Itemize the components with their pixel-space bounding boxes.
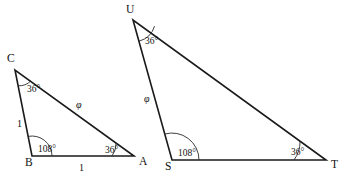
side-label-cb: 1 bbox=[17, 118, 22, 129]
angle-label-t: 36° bbox=[291, 147, 305, 157]
geometry-figure: C B A 36° 108° 36° 1 1 φ U S T 36° 108° … bbox=[0, 0, 344, 180]
figure-canvas: C B A 36° 108° 36° 1 1 φ U S T 36° 108° … bbox=[0, 0, 344, 180]
large-triangle-outline bbox=[133, 20, 326, 160]
angle-label-c: 36° bbox=[27, 84, 41, 94]
small-triangle: C B A 36° 108° 36° 1 1 φ bbox=[7, 52, 148, 173]
angle-label-b: 108° bbox=[38, 144, 56, 154]
vertex-label-b: B bbox=[25, 156, 33, 168]
angle-label-u: 36° bbox=[145, 36, 159, 46]
large-triangle: U S T 36° 108° 36° φ bbox=[126, 3, 338, 172]
vertex-label-t: T bbox=[331, 158, 338, 170]
vertex-label-s: S bbox=[165, 160, 171, 172]
angle-label-a: 36° bbox=[105, 145, 119, 155]
vertex-label-u: U bbox=[126, 3, 135, 15]
side-label-ca-phi: φ bbox=[76, 99, 82, 110]
side-label-ba: 1 bbox=[79, 162, 84, 173]
angle-label-s: 108° bbox=[178, 148, 196, 158]
vertex-label-a: A bbox=[139, 155, 148, 167]
vertex-label-c: C bbox=[7, 52, 15, 64]
side-label-us-phi: φ bbox=[144, 93, 150, 104]
